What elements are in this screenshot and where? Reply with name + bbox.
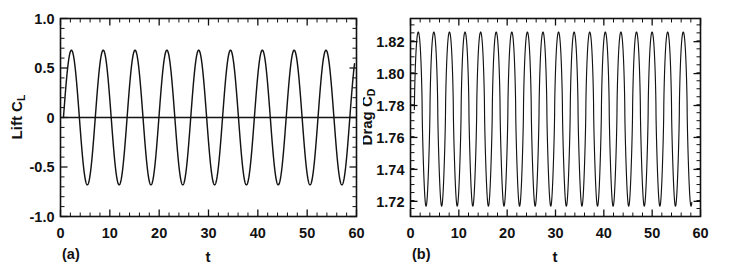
y-tick-label: 0.5 xyxy=(34,60,54,76)
drag-plot: 1.721.741.761.781.801.82 0102030405060 D… xyxy=(363,0,733,275)
drag-x-tick-labels: 0102030405060 xyxy=(406,225,708,241)
panel-label-b: (b) xyxy=(412,246,431,262)
lift-plot: -1.0-0.500.51.0 0102030405060 Lift CL t … xyxy=(0,0,370,275)
drag-plot-frame xyxy=(411,19,701,217)
panel-b-drag: 1.721.741.761.781.801.82 0102030405060 D… xyxy=(363,0,733,275)
panel-label-a: (a) xyxy=(62,246,80,262)
y-tick-label: 1.72 xyxy=(376,194,404,210)
drag-y-tick-labels: 1.721.741.761.781.801.82 xyxy=(376,34,404,210)
svg-text:Lift CL: Lift CL xyxy=(8,94,27,139)
lift-y-axis-title: Lift CL xyxy=(8,94,27,139)
x-tick-label: 20 xyxy=(499,225,515,241)
x-tick-label: 20 xyxy=(151,225,167,241)
x-tick-label: 60 xyxy=(692,225,708,241)
y-tick-label: 1.74 xyxy=(376,162,404,178)
drag-coefficient-curve xyxy=(414,32,691,206)
figure-root: -1.0-0.500.51.0 0102030405060 Lift CL t … xyxy=(0,0,733,275)
lift-y-tick-labels: -1.0-0.500.51.0 xyxy=(30,11,55,225)
x-tick-label: 30 xyxy=(547,225,563,241)
x-tick-label: 10 xyxy=(102,225,118,241)
x-tick-label: 50 xyxy=(299,225,315,241)
x-tick-label: 10 xyxy=(451,225,467,241)
x-tick-label: 40 xyxy=(596,225,612,241)
panel-a-lift: -1.0-0.500.51.0 0102030405060 Lift CL t … xyxy=(0,0,370,275)
svg-text:Drag CD: Drag CD xyxy=(363,88,377,145)
x-tick-label: 0 xyxy=(406,225,414,241)
y-tick-label: 1.82 xyxy=(376,34,404,50)
y-tick-label: 1.80 xyxy=(376,66,404,82)
x-tick-label: 50 xyxy=(644,225,660,241)
y-tick-label: -0.5 xyxy=(30,159,55,175)
drag-x-axis-title: t xyxy=(553,248,558,265)
lift-x-axis-title: t xyxy=(206,248,211,265)
y-tick-label: 0 xyxy=(46,110,54,126)
y-tick-label: 1.76 xyxy=(376,130,404,146)
y-tick-label: -1.0 xyxy=(30,209,55,225)
lift-x-tick-labels: 0102030405060 xyxy=(56,225,364,241)
y-tick-label: 1.0 xyxy=(34,11,54,27)
drag-y-axis-title: Drag CD xyxy=(363,88,377,145)
y-tick-label: 1.78 xyxy=(376,98,404,114)
x-tick-label: 30 xyxy=(200,225,216,241)
drag-axis-ticks xyxy=(411,19,701,217)
x-tick-label: 40 xyxy=(250,225,266,241)
x-tick-label: 0 xyxy=(56,225,64,241)
